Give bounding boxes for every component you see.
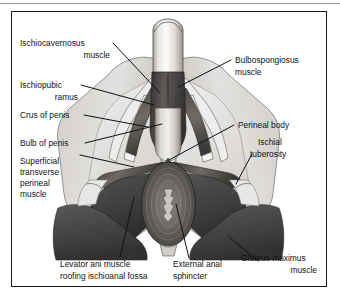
label-ischial-tuberosity-line1: Ischial: [258, 137, 282, 147]
label-ischiopubic-line1: Ischiopubic: [20, 80, 62, 90]
label-ischial-tuberosity-line2: tuberosity: [250, 149, 287, 159]
label-superficial-line1: Superficial: [20, 156, 59, 166]
label-crus-of-penis: Crus of penis: [20, 110, 69, 120]
perineum-anatomy-illustration: Ischiocavernosus muscle Ischiopubic ramu…: [12, 12, 325, 285]
figure-frame: Ischiocavernosus muscle Ischiopubic ramu…: [11, 11, 327, 287]
label-bulb-of-penis: Bulb of penis: [20, 138, 68, 148]
label-ischiocavernosus-line2: muscle: [83, 50, 110, 60]
top-divider-rule: [0, 3, 340, 4]
label-levator-ani-line2: roofing ischioanal fossa: [60, 271, 148, 281]
label-bulbospongiosus-line2: muscle: [235, 67, 262, 77]
label-ischiopubic-line2: ramus: [55, 92, 78, 102]
label-perineal-body: Perineal body: [238, 120, 290, 130]
label-external-anal-sphincter-line1: External anal: [173, 259, 222, 269]
label-gluteus-maximus-line1: Gluteus maximus: [241, 253, 306, 263]
label-bulbospongiosus-line1: Bulbospongiosus: [235, 55, 299, 65]
label-ischiocavernosus-line1: Ischiocavernosus: [20, 38, 85, 48]
label-superficial-line2: transverse: [20, 167, 59, 177]
bulb-of-penis: [155, 108, 181, 162]
label-levator-ani-line1: Levator ani muscle: [60, 259, 131, 269]
label-external-anal-sphincter-line2: sphincter: [173, 271, 207, 281]
label-superficial-line3: perineal: [20, 178, 50, 188]
label-gluteus-maximus-line2: muscle: [290, 265, 317, 275]
screenshot-root: Ischiocavernosus muscle Ischiopubic ramu…: [0, 0, 340, 299]
label-superficial-line4: muscle: [20, 189, 47, 199]
